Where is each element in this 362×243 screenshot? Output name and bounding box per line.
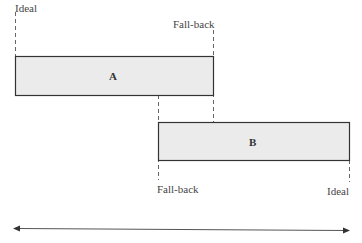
arrow-left-head-icon xyxy=(13,226,20,232)
arrow-right-head-icon xyxy=(343,228,350,234)
box-b-label: B xyxy=(249,137,256,148)
diagram-canvas xyxy=(0,0,362,243)
label-b-fallback: Fall-back xyxy=(157,184,199,195)
box-a-label: A xyxy=(109,71,117,82)
label-a-ideal: Ideal xyxy=(15,3,37,14)
label-b-ideal: Ideal xyxy=(327,186,349,197)
range-arrow xyxy=(13,226,350,234)
label-a-fallback: Fall-back xyxy=(173,19,215,30)
